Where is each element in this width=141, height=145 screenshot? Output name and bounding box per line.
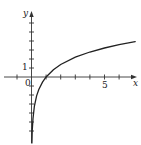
x-tick-label-5: 5 xyxy=(102,81,108,90)
x-axis-label: x xyxy=(133,79,138,88)
origin-label: 0 xyxy=(25,79,31,88)
y-axis-arrow-icon xyxy=(29,11,33,17)
y-tick-label-1: 1 xyxy=(22,63,28,72)
log-curve-plot xyxy=(0,0,141,145)
y-axis-label: y xyxy=(23,9,28,18)
log-curve xyxy=(32,42,135,143)
x-axis xyxy=(4,75,134,80)
